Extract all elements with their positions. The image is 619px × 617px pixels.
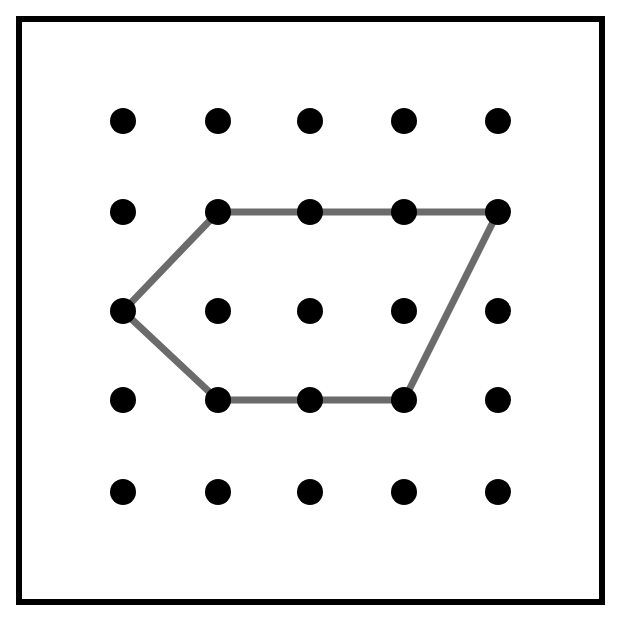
grid-dot <box>485 108 511 134</box>
grid-dot <box>110 298 136 324</box>
grid-dot <box>110 199 136 225</box>
grid-dot <box>485 387 511 413</box>
grid-dot <box>391 479 417 505</box>
dot-grid-canvas <box>0 0 619 617</box>
grid-dot <box>110 108 136 134</box>
grid-dot <box>485 479 511 505</box>
grid-dot <box>297 479 323 505</box>
grid-dot <box>205 298 231 324</box>
grid-dot <box>110 479 136 505</box>
grid-dot <box>110 387 136 413</box>
grid-dot <box>485 298 511 324</box>
grid-dot <box>205 108 231 134</box>
grid-dot <box>391 199 417 225</box>
geoboard-figure <box>0 0 619 617</box>
grid-dot <box>391 387 417 413</box>
grid-dot <box>297 199 323 225</box>
grid-dot <box>391 298 417 324</box>
grid-dot <box>205 199 231 225</box>
grid-dot <box>297 387 323 413</box>
grid-dot <box>297 108 323 134</box>
grid-dot <box>485 199 511 225</box>
grid-dot <box>391 108 417 134</box>
grid-dot <box>205 387 231 413</box>
grid-dot <box>205 479 231 505</box>
grid-dot <box>297 298 323 324</box>
